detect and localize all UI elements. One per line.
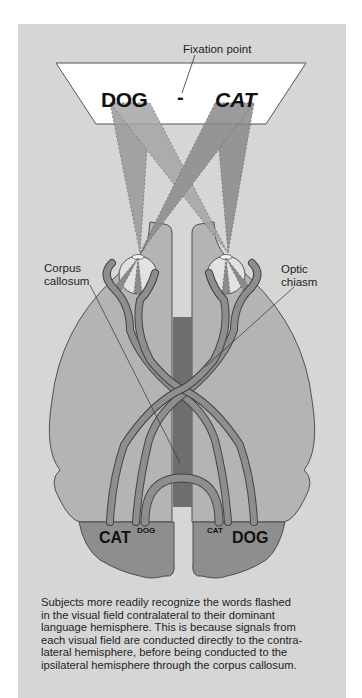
light-rays (110, 103, 254, 253)
corpus-callosum-label: Corpus callosum (44, 262, 89, 288)
screen-word-left: DOG (101, 88, 147, 112)
left-cortex-word-primary: CAT (99, 529, 131, 547)
right-cortex-word-primary: DOG (232, 529, 268, 547)
screen-word-right: CAT (215, 88, 257, 112)
right-cortex-word-secondary: CAT (207, 526, 223, 535)
fixation-point-label: Fixation point (183, 43, 251, 56)
left-cortex-word-secondary: DOG (137, 526, 155, 535)
fixation-mark: - (177, 86, 184, 109)
figure-caption: Subjects more readily recognize the word… (41, 596, 331, 672)
optic-chiasm-label: Optic chiasm (281, 263, 317, 289)
